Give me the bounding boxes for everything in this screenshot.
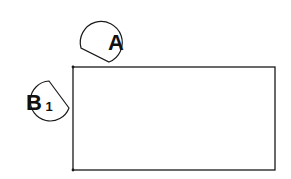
callout-a: A bbox=[80, 21, 124, 62]
callout-b1-subscript: 1 bbox=[45, 99, 52, 114]
diagram-canvas: A B 1 bbox=[0, 0, 291, 179]
callout-a-label: A bbox=[108, 30, 124, 55]
corner-dot bbox=[72, 169, 75, 172]
callout-b1-label: B bbox=[26, 90, 42, 115]
corner-dot bbox=[72, 66, 75, 69]
main-rectangle bbox=[73, 67, 275, 170]
callout-b1: B 1 bbox=[26, 81, 69, 121]
